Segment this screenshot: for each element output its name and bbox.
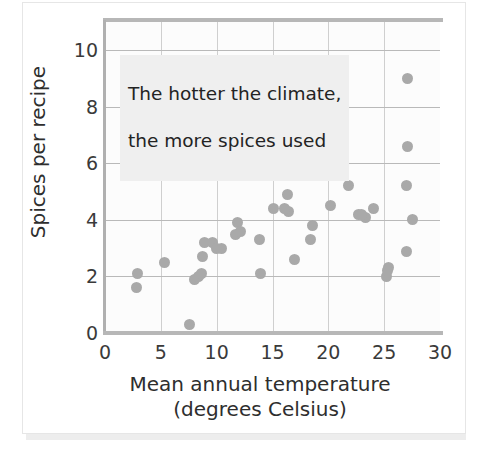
y-axis-spine [103, 20, 106, 335]
data-point [325, 200, 336, 211]
data-point [402, 73, 413, 84]
annotation-line2: the more spices used [128, 129, 341, 153]
x-tick-label: 30 [420, 343, 460, 362]
x-tick-label: 5 [141, 343, 181, 362]
data-point [307, 220, 318, 231]
x-tick-label: 10 [197, 343, 237, 362]
x-axis-title: Mean annual temperature (degrees Celsius… [60, 372, 460, 422]
y-tick-label: 10 [68, 41, 98, 60]
data-point [235, 226, 246, 237]
data-point [216, 243, 227, 254]
data-point [402, 141, 413, 152]
x-axis-spine [103, 331, 443, 335]
data-point [132, 268, 143, 279]
plot-top-rule [103, 18, 443, 22]
data-point [197, 251, 208, 262]
x-tick-label: 15 [253, 343, 293, 362]
data-point [131, 282, 142, 293]
data-point [343, 180, 354, 191]
data-point [282, 189, 293, 200]
data-point [255, 268, 266, 279]
data-point [368, 203, 379, 214]
x-axis-title-line1: Mean annual temperature [60, 372, 460, 397]
chart-annotation: The hotter the climate, the more spices … [120, 55, 349, 181]
y-tick-label: 8 [68, 98, 98, 117]
x-axis-tick-labels: 051015202530 [0, 343, 488, 369]
data-point [289, 254, 300, 265]
data-point [184, 319, 195, 330]
y-tick-label: 4 [68, 211, 98, 230]
data-point [407, 214, 418, 225]
y-axis-title: Spices per recipe [26, 52, 50, 252]
x-tick-label: 0 [85, 343, 125, 362]
x-tick-label: 25 [364, 343, 404, 362]
scatter-chart: 0246810 051015202530 Spices per recipe M… [0, 0, 488, 449]
data-point [196, 268, 207, 279]
data-point [401, 246, 412, 257]
y-tick-label: 2 [68, 267, 98, 286]
x-axis-title-line2: (degrees Celsius) [60, 397, 460, 422]
data-point [268, 203, 279, 214]
data-point [254, 234, 265, 245]
data-point [401, 180, 412, 191]
y-tick-label: 6 [68, 154, 98, 173]
data-point [305, 234, 316, 245]
gridline-horizontal [105, 50, 440, 51]
annotation-line1: The hotter the climate, [128, 82, 341, 106]
y-tick-label: 0 [68, 324, 98, 343]
gridline-vertical [384, 22, 385, 333]
x-tick-label: 20 [308, 343, 348, 362]
gridline-horizontal [105, 220, 440, 221]
data-point [159, 257, 170, 268]
